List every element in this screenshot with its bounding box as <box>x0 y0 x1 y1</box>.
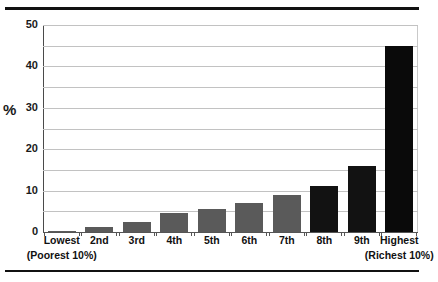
bar-lowest <box>48 231 76 232</box>
bar-2nd <box>85 227 113 232</box>
bar-4th <box>160 213 188 232</box>
bar-5th <box>198 209 226 232</box>
x-sublabel-highest: (Richest 10%) <box>354 249 438 261</box>
y-tick-label-50: 50 <box>10 18 38 30</box>
bar-7th <box>273 195 301 232</box>
y-tick-label-20: 20 <box>10 142 38 154</box>
x-sublabel-lowest: (Poorest 10%) <box>17 249 107 261</box>
bar-8th <box>310 186 338 232</box>
gridline-45 <box>43 46 418 47</box>
gridline-25 <box>43 129 418 130</box>
y-tick-label-40: 40 <box>10 59 38 71</box>
bar-3rd <box>123 222 151 232</box>
top-divider-rule <box>5 7 419 10</box>
bar-9th <box>348 166 376 232</box>
y-tick-label-10: 10 <box>10 184 38 196</box>
plot-area <box>43 25 418 232</box>
bar-highest <box>385 46 413 232</box>
gridline-20 <box>43 149 418 150</box>
gridline-30 <box>43 108 418 109</box>
x-label-highest: Highest <box>359 234 438 246</box>
gridline-35 <box>43 87 418 88</box>
bar-6th <box>235 203 263 232</box>
gridline-50 <box>43 25 418 26</box>
gridline-40 <box>43 66 418 67</box>
x-axis-tick-labels: Lowest(Poorest 10%)2nd3rd4th5th6th7th8th… <box>43 234 418 280</box>
y-tick-label-30: 30 <box>10 101 38 113</box>
